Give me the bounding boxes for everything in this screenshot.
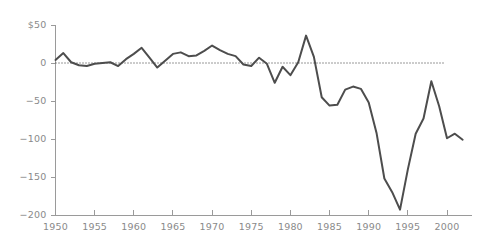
x-axis-tick-label: 1990 — [349, 221, 389, 232]
x-axis-tick-label: 1955 — [75, 221, 115, 232]
x-axis-tick-label: 1950 — [36, 221, 76, 232]
y-axis-tick-label: −200 — [0, 209, 47, 220]
series-polyline — [56, 36, 463, 210]
y-axis-tick-label: −150 — [0, 171, 47, 182]
x-axis-tick-label: 2000 — [427, 221, 467, 232]
x-axis-tick-label: 1980 — [270, 221, 310, 232]
y-axis-tick-label: −100 — [0, 133, 47, 144]
x-axis-tick-label: 1985 — [310, 221, 350, 232]
chart-axes — [51, 25, 473, 215]
chart-container: $500−50−100−150−200 19501955196019651970… — [0, 0, 496, 242]
x-axis-tick-label: 1965 — [153, 221, 193, 232]
data-series-line — [56, 36, 463, 210]
x-axis-tick-label: 1970 — [192, 221, 232, 232]
x-axis-tick-label: 1995 — [388, 221, 428, 232]
y-axis-tick-label: $50 — [0, 19, 47, 30]
y-axis-tick-label: 0 — [0, 57, 47, 68]
x-axis-tick-label: 1960 — [114, 221, 154, 232]
x-axis-tick-label: 1975 — [231, 221, 271, 232]
y-axis-tick-label: −50 — [0, 95, 47, 106]
line-chart-plot — [0, 0, 496, 242]
